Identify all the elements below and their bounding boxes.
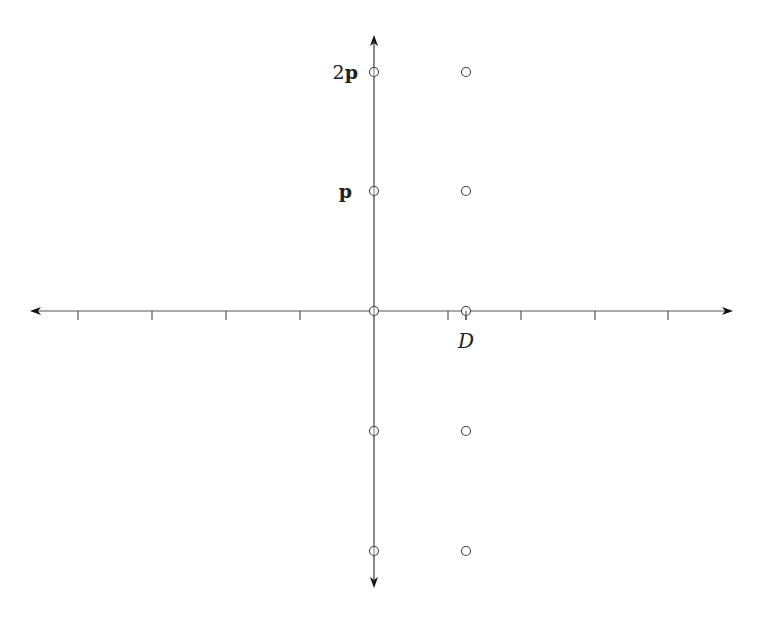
lattice-point bbox=[462, 68, 471, 77]
lattice-point bbox=[462, 547, 471, 556]
label-p: p bbox=[339, 180, 352, 202]
lattice-point bbox=[462, 187, 471, 196]
lattice-diagram: 2p p D bbox=[0, 0, 759, 620]
diagram-canvas: 2p p D bbox=[0, 0, 759, 620]
label-2p: 2p bbox=[333, 61, 358, 83]
label-D: D bbox=[457, 329, 474, 353]
axes bbox=[30, 35, 733, 588]
lattice-point bbox=[462, 427, 471, 436]
